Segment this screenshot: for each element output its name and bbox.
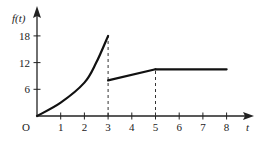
piecewise-function-chart: 12345678 61218 O t f(t) (0, 0, 263, 142)
x-tick-label: 3 (105, 121, 111, 133)
x-tick-label: 8 (224, 121, 230, 133)
x-tick-label: 5 (153, 121, 159, 133)
series-lines (37, 36, 227, 116)
x-tick-label: 7 (200, 121, 206, 133)
x-tick-label: 2 (82, 121, 88, 133)
x-tick-label: 1 (58, 121, 64, 133)
y-tick-label: 6 (25, 83, 31, 95)
x-tick-label: 4 (129, 121, 135, 133)
x-axis-label: t (246, 121, 250, 133)
y-tick-labels: 61218 (19, 30, 31, 95)
segment-2-line (108, 69, 155, 80)
x-tick-labels: 12345678 (58, 121, 230, 133)
axes (37, 12, 250, 116)
x-tick-label: 6 (176, 121, 182, 133)
segment-1-curve (37, 36, 108, 116)
y-axis-label: f(t) (12, 12, 26, 25)
y-tick-label: 18 (19, 30, 31, 42)
origin-label: O (22, 121, 30, 133)
y-tick-label: 12 (19, 57, 30, 69)
